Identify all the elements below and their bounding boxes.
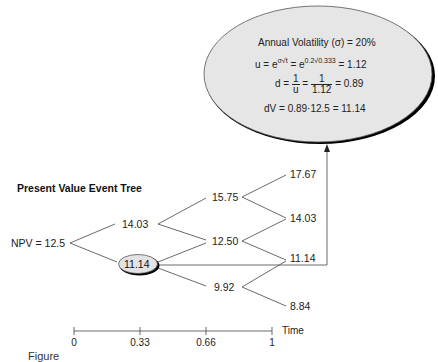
down-factor-eq: =	[300, 78, 311, 89]
frac1-den: u	[292, 85, 300, 95]
figure-caption: Figure	[28, 350, 59, 362]
callout-dv: dV = 0.89·12.5 = 11.14	[264, 103, 366, 114]
callout-down-factor: d = 1u = 11.12 = 0.89	[275, 74, 363, 95]
up-factor-exp2: 0.2√0.333	[305, 57, 336, 64]
down-factor-result: = 0.89	[332, 78, 363, 89]
fraction-1-over-1-12: 11.12	[311, 74, 332, 95]
timeline-tick-3: 1	[269, 337, 275, 348]
timeline-axis	[74, 327, 272, 335]
timeline-axis-label: Time	[282, 325, 304, 337]
diagram-title: Present Value Event Tree	[17, 182, 142, 194]
timeline-tick-0: 0	[71, 337, 77, 348]
up-factor-u: u = e	[255, 59, 278, 70]
up-factor-exp1: σ√t	[278, 57, 288, 64]
node-l2-ud: 12.50	[212, 235, 238, 247]
tree-branches	[70, 150, 327, 306]
up-factor-result: = 1.12	[336, 59, 367, 70]
node-l2-dd: 9.92	[214, 281, 234, 293]
timeline-tick-2: 0.66	[196, 337, 215, 348]
root-node-npv: NPV = 12.5	[11, 237, 65, 249]
callout-volatility: Annual Volatility (σ) = 20%	[258, 37, 376, 48]
down-factor-d: d =	[275, 78, 292, 89]
timeline-tick-1: 0.33	[130, 337, 149, 348]
callout-up-factor: u = eσ√t = e0.2√0.333 = 1.12	[255, 57, 367, 70]
arrow-head-icon	[324, 144, 330, 152]
node-l1-down-highlighted: 11.14	[124, 258, 150, 270]
up-factor-eq: = e	[288, 59, 305, 70]
node-l3-uud: 14.03	[290, 212, 316, 224]
node-l3-ddd: 8.84	[290, 300, 310, 312]
node-l3-udd: 11.14	[290, 252, 316, 264]
fraction-1-over-u: 1u	[292, 74, 300, 95]
node-l2-uu: 15.75	[212, 191, 238, 203]
node-l3-uuu: 17.67	[290, 168, 316, 180]
frac2-den: 1.12	[311, 85, 332, 95]
node-l1-up: 14.03	[122, 218, 148, 230]
